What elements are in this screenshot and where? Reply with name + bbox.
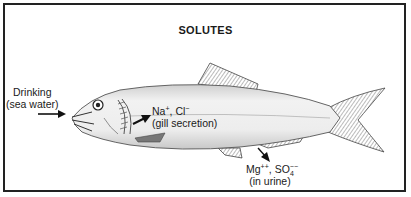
drinking-label: Drinking (sea water): [6, 86, 59, 110]
gill-label-line2: (gill secretion): [152, 117, 217, 129]
urine-label-line2: (in urine): [246, 175, 294, 187]
sodium-ion: Na: [152, 105, 165, 117]
chloride-charge: −: [185, 105, 189, 112]
magnesium-charge: ++: [261, 163, 269, 170]
gill-ions: Na+, Cl−: [152, 105, 217, 117]
fish-illustration: [0, 0, 411, 197]
drinking-label-line2: (sea water): [6, 98, 59, 110]
pelvic-fin: [218, 148, 242, 158]
urine-label: Mg++, SO−−4 (in urine): [246, 163, 294, 187]
gill-secretion-label: Na+, Cl− (gill secretion): [152, 105, 217, 129]
chloride-ion: Cl: [175, 105, 185, 117]
magnesium-ion: Mg: [246, 163, 261, 175]
drinking-arrow: [38, 110, 66, 118]
urine-ions: Mg++, SO−−4: [246, 163, 294, 175]
drinking-label-line1: Drinking: [6, 86, 59, 98]
sulfate-charge: −−: [290, 163, 298, 170]
sulfate-ion: SO: [275, 163, 290, 175]
fish-pupil: [96, 103, 100, 107]
urine-arrow: [258, 148, 270, 162]
